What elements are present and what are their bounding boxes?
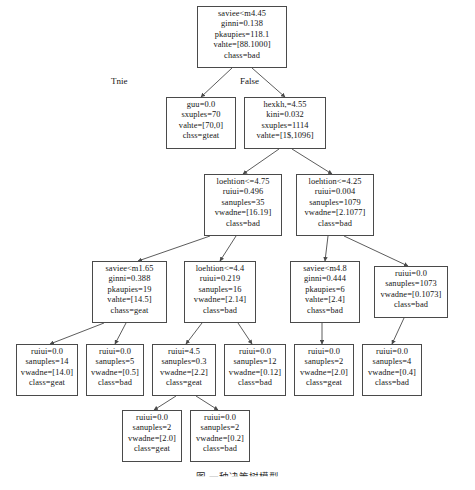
edge-l4-c-to-l5-a [154, 396, 176, 410]
node-line: sanuples=16 [188, 285, 252, 295]
node-line: vahte=[2.4] [294, 295, 356, 305]
node-line: loehtion<=4.25 [300, 177, 370, 187]
node-line: sanuples=5 [90, 357, 140, 367]
node-line: saviee<m4.45 [201, 9, 283, 19]
node-leaf-2-bad-bottom: ruiui=0.0sanuples=2vwadne=[0.2]class=bad [190, 410, 250, 462]
node-line: ruiui=0.0 [378, 269, 444, 279]
node-line: ruiui=0.0 [20, 347, 74, 357]
decision-tree-figure: saviee<m4.45ginni=0.138pkaupies=118.1vah… [0, 0, 475, 490]
node-line: vwadne=[0.2] [194, 434, 246, 444]
node-line: pkaupies=19 [96, 285, 163, 295]
node-line: ruiui=0.0 [228, 347, 282, 357]
node-line: ruiui=0.219 [188, 274, 252, 284]
edge-label-true: Tnie [110, 76, 129, 86]
node-line: pkaupies=118.1 [201, 30, 283, 40]
edge-l2-left-to-l3-a [138, 236, 210, 261]
edge-l2-right-to-l3-c [325, 236, 328, 261]
node-line: loehtion<=4.4 [188, 264, 252, 274]
edge-l4-c-to-l5-b [196, 396, 218, 410]
node-line: ruiui=0.0 [366, 347, 418, 357]
node-l3-leaf-1073: ruiui=0.0sanuples=1073vwadne=[0.1073]cla… [374, 266, 448, 318]
node-line: class=bad [378, 300, 444, 310]
node-line: sanuples=12 [228, 357, 282, 367]
node-line: sanuples=0.3 [156, 357, 212, 367]
node-line: class=geat [20, 378, 74, 388]
node-line: class=geat [156, 378, 212, 388]
node-line: vwadne=[14.0] [20, 368, 74, 378]
node-line: sanuples=14 [20, 357, 74, 367]
node-line: ruiui=0.0 [194, 413, 246, 423]
edge-l3-a-to-l4-a [50, 323, 104, 344]
edge-l2-left-to-l3-b [220, 236, 236, 261]
node-l3-saviee-m165: saviee<m1.65ginni=0.388pkaupies=19vahte=… [92, 261, 167, 323]
node-line: ruiui=0.496 [208, 187, 278, 197]
node-line: ruiui=4.5 [156, 347, 212, 357]
node-line: ruiui=0.0 [126, 413, 178, 423]
node-l2-left: loehtion<=4.75ruiui=0.496sanuples=35vwad… [204, 174, 282, 236]
node-line: class=bad [228, 378, 282, 388]
node-line: ginni=0.388 [96, 274, 163, 284]
node-line: kini=0.032 [248, 110, 322, 120]
node-line: loehtion<=4.75 [208, 177, 278, 187]
node-line: vwadne=[2.2] [156, 368, 212, 378]
edge-l1-right-to-l2-right [292, 149, 332, 174]
node-leaf-14: ruiui=0.0sanuples=14vwadne=[14.0]class=g… [16, 344, 78, 396]
node-line: vwadne=[2.0] [298, 368, 350, 378]
node-leaf-5: ruiui=0.0sanuples=5vwadne=[0.5]class=bad [86, 344, 144, 396]
node-l1-right: hexkh,=4.55kini=0.032sxuples=1114vahte=[… [244, 97, 326, 149]
node-line: hexkh,=4.55 [248, 100, 322, 110]
node-line: ruiui=0.0 [298, 347, 350, 357]
node-line: ginni=0.444 [294, 274, 356, 284]
edge-l3-b-to-l4-d [238, 323, 252, 344]
node-line: vahte=[14.5] [96, 295, 163, 305]
node-line: vwadne=[16.19] [208, 208, 278, 218]
node-line: class=bad [90, 378, 140, 388]
node-l3-saviee-m48: saviee<m4.8ginni=0.444pkaupies=6vahte=[2… [290, 261, 360, 323]
node-line: ruiui=0.004 [300, 187, 370, 197]
node-line: sanuples=1073 [378, 279, 444, 289]
node-line: sanuples=35 [208, 198, 278, 208]
edge-label-false: False [239, 76, 260, 86]
node-line: sanuples=2 [126, 423, 178, 433]
edge-l1-right-to-l2-left [243, 149, 279, 174]
node-l1-left: guu=0.0sxuples=70vahte=[70,0]chss=gteat [166, 97, 236, 149]
node-line: vwadne=[2.0] [126, 434, 178, 444]
figure-caption-text: 图 一种决策树模型 [196, 470, 279, 483]
node-line: ginni=0.138 [201, 19, 283, 29]
figure-caption: 图 一种决策树模型 [0, 470, 475, 490]
node-line: sanuples=1079 [300, 198, 370, 208]
node-line: sanuples=4 [366, 357, 418, 367]
node-line: pkaupies=6 [294, 285, 356, 295]
node-leaf-4-bad: ruiui=0.0sanuples=4vwadne=[0.4]class=bad [362, 344, 422, 396]
node-line: vwadne=[2.1077] [300, 208, 370, 218]
node-line: sanuples=2 [194, 423, 246, 433]
node-line: chass=bad [294, 306, 356, 316]
node-line: vahte=[1$,1096] [248, 131, 322, 141]
node-line: vahte=[88.1000] [201, 40, 283, 50]
node-line: class=bad [300, 219, 370, 229]
edge-root-to-l1-left [201, 68, 232, 97]
node-leaf-2-geat: ruiui=0.0sanuples=2vwadne=[2.0]class=gea… [294, 344, 354, 396]
node-l2-right: loehtion<=4.25ruiui=0.004sanuples=1079vw… [296, 174, 374, 236]
node-line: class=bad [194, 444, 246, 454]
node-line: chass=bad [201, 51, 283, 61]
edge-l3-a-to-l4-b [115, 323, 126, 344]
node-line: vwadne=[0.5] [90, 368, 140, 378]
node-line: sanuples=2 [298, 357, 350, 367]
edge-l3-b-to-l4-c [186, 323, 202, 344]
node-root: saviee<m4.45ginni=0.138pkaupies=118.1vah… [197, 6, 287, 68]
node-line: vwadne=[0.1073] [378, 290, 444, 300]
node-leaf-2-geat-bottom: ruiui=0.0sanuples=2vwadne=[2.0]class=gea… [122, 410, 182, 462]
node-line: guu=0.0 [170, 100, 232, 110]
node-line: vwadne=[2.14] [188, 295, 252, 305]
node-l3-loehtion-44: loehtion<=4.4ruiui=0.219sanuples=16vwadn… [184, 261, 256, 323]
node-leaf-03: ruiui=4.5sanuples=0.3vwadne=[2.2]class=g… [152, 344, 216, 396]
node-line: vahte=[70,0] [170, 121, 232, 131]
node-line: class=geat [126, 444, 178, 454]
node-line: saviee<m4.8 [294, 264, 356, 274]
node-line: sxuples=1114 [248, 121, 322, 131]
node-line: class=bad [366, 378, 418, 388]
node-line: chass=geat [96, 306, 163, 316]
node-line: class=bad [208, 219, 278, 229]
node-line: sxuples=70 [170, 110, 232, 120]
